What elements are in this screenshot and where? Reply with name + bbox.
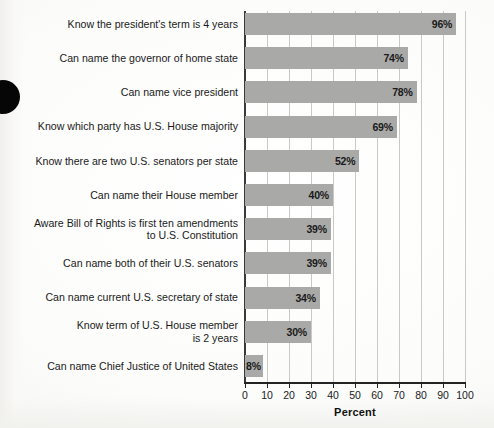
category-label: Can name current U.S. secretary of state bbox=[0, 291, 238, 304]
bar: 52% bbox=[245, 150, 359, 172]
plot-area: 96%74%78%69%52%40%39%39%34%30%8% bbox=[245, 11, 465, 382]
category-label: Can name the governor of home state bbox=[0, 52, 238, 65]
bar: 74% bbox=[245, 47, 408, 69]
bar-row: 39% bbox=[245, 216, 465, 250]
bar-value-label: 96% bbox=[432, 18, 452, 30]
category-label-column: Know the president's term is 4 yearsCan … bbox=[0, 11, 238, 382]
bar: 96% bbox=[245, 13, 456, 35]
x-axis-tick-label: 100 bbox=[445, 389, 485, 401]
category-label: Can name Chief Justice of United States bbox=[0, 360, 238, 373]
bar-row: 52% bbox=[245, 148, 465, 182]
bar-row: 96% bbox=[245, 11, 465, 45]
bar-series: 96%74%78%69%52%40%39%39%34%30%8% bbox=[245, 11, 465, 382]
bar: 40% bbox=[245, 184, 333, 206]
bar-row: 74% bbox=[245, 45, 465, 79]
bar-chart: Know the president's term is 4 yearsCan … bbox=[0, 0, 494, 428]
category-label: Know term of U.S. House member is 2 year… bbox=[0, 319, 238, 344]
bar-value-label: 78% bbox=[392, 86, 412, 98]
bar-row: 40% bbox=[245, 182, 465, 216]
category-label: Can name vice president bbox=[0, 86, 238, 99]
category-label: Aware Bill of Rights is first ten amendm… bbox=[0, 217, 238, 242]
bar-value-label: 74% bbox=[383, 52, 403, 64]
bar: 39% bbox=[245, 252, 331, 274]
bar: 78% bbox=[245, 81, 417, 103]
bar-row: 8% bbox=[245, 353, 465, 387]
bar-value-label: 40% bbox=[309, 189, 329, 201]
bar-value-label: 39% bbox=[306, 257, 326, 269]
bar-value-label: 34% bbox=[295, 292, 315, 304]
bar-row: 30% bbox=[245, 319, 465, 353]
bar: 34% bbox=[245, 287, 320, 309]
category-label: Can name their House member bbox=[0, 189, 238, 202]
gridline bbox=[465, 11, 466, 382]
bar-value-label: 8% bbox=[246, 360, 261, 372]
bar-value-label: 69% bbox=[372, 121, 392, 133]
bar-row: 69% bbox=[245, 114, 465, 148]
category-label: Know which party has U.S. House majority bbox=[0, 120, 238, 133]
bar-value-label: 52% bbox=[335, 155, 355, 167]
bar-row: 78% bbox=[245, 79, 465, 113]
bar: 39% bbox=[245, 218, 331, 240]
bar-value-label: 39% bbox=[306, 223, 326, 235]
x-axis-title: Percent bbox=[245, 406, 465, 418]
category-label: Know the president's term is 4 years bbox=[0, 18, 238, 31]
bar: 69% bbox=[245, 116, 397, 138]
bar-row: 39% bbox=[245, 250, 465, 284]
bar: 30% bbox=[245, 321, 311, 343]
bar-value-label: 30% bbox=[287, 326, 307, 338]
category-label: Can name both of their U.S. senators bbox=[0, 257, 238, 270]
category-label: Know there are two U.S. senators per sta… bbox=[0, 155, 238, 168]
x-axis-tick bbox=[465, 382, 466, 388]
bar: 8% bbox=[245, 355, 263, 377]
bar-row: 34% bbox=[245, 285, 465, 319]
